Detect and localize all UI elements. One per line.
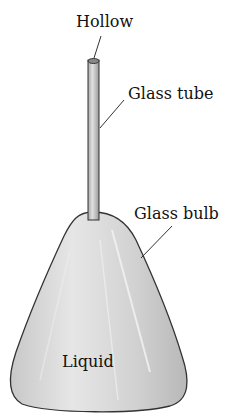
label-hollow: Hollow (76, 12, 133, 31)
leader-glass-bulb (141, 226, 172, 258)
leader-hollow (94, 36, 101, 58)
label-liquid: Liquid (62, 352, 114, 371)
label-glass-tube: Glass tube (128, 84, 213, 103)
label-glass-bulb: Glass bulb (134, 204, 219, 223)
leader-glass-tube (100, 100, 124, 128)
glass-bulb (11, 212, 187, 412)
glass-tube (88, 60, 99, 220)
tube-hollow-opening (88, 59, 99, 64)
